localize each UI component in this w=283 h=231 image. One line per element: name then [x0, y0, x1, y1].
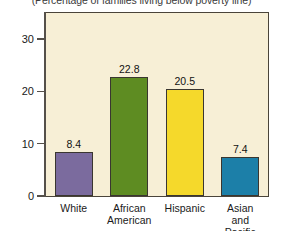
y-tick-label-10: 10	[0, 138, 34, 150]
x-category-label-3: Asian and Pacific Islander	[219, 202, 262, 231]
bar-value-label-1: 22.8	[119, 63, 139, 75]
y-tick-label-30: 30	[0, 33, 34, 45]
plot-area: 8.422.820.57.4	[46, 13, 268, 196]
bar-chart-figure: (Percentage of families living below pov…	[0, 0, 283, 231]
chart-subtitle: (Percentage of families living below pov…	[0, 0, 283, 6]
y-tick-20	[37, 91, 45, 92]
y-tick-10	[37, 143, 45, 144]
bar-2	[166, 89, 204, 196]
bar-value-label-3: 7.4	[233, 143, 248, 155]
y-tick-label-0: 0	[0, 190, 34, 202]
y-tick-0	[37, 195, 45, 196]
y-tick-30	[37, 38, 45, 39]
x-category-label-2: Hispanic	[165, 202, 205, 214]
bar-1	[110, 77, 148, 196]
bar-3	[221, 157, 259, 196]
bar-value-label-2: 20.5	[175, 75, 195, 87]
bar-0	[55, 152, 93, 196]
bar-value-label-0: 8.4	[66, 138, 81, 150]
x-category-label-0: White	[60, 202, 87, 214]
x-category-label-1: African American	[107, 202, 151, 226]
y-tick-label-20: 20	[0, 85, 34, 97]
